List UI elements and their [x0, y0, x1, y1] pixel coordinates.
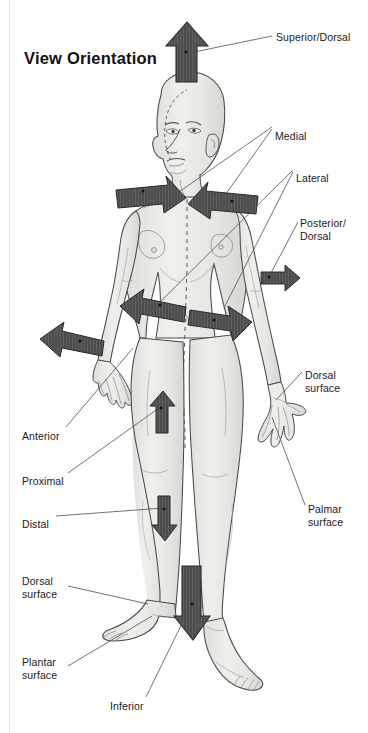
label-palmar-surface: Palmar [308, 503, 342, 516]
label-dorsal-surface-foot-2: surface [22, 588, 57, 601]
pupil-right [192, 129, 195, 132]
posterior-arrow [261, 265, 300, 291]
label-posterior-dorsal: Posterior/ [300, 217, 346, 230]
foot-left-shape [103, 600, 176, 641]
label-dorsal-surface-hand-2: surface [305, 382, 340, 395]
pupil-left [171, 130, 174, 133]
anterior-arrow [40, 322, 104, 357]
label-plantar-surface-2: surface [22, 669, 57, 682]
label-distal: Distal [22, 518, 49, 531]
hand-left-shape [93, 360, 133, 408]
label-inferior: Inferior [110, 700, 143, 713]
label-anterior: Anterior [22, 430, 60, 443]
label-dorsal-surface-hand: Dorsal [305, 369, 336, 382]
label-lateral: Lateral [296, 172, 329, 185]
label-posterior-dorsal-2: Dorsal [300, 230, 331, 243]
leader-plantar-foot [68, 616, 152, 666]
label-medial: Medial [275, 130, 307, 143]
head-shape [153, 72, 225, 181]
label-dorsal-surface-foot: Dorsal [22, 575, 53, 588]
foot-right-shape [204, 618, 263, 690]
figure-svg [0, 0, 368, 733]
label-palmar-surface-2: surface [308, 516, 343, 529]
anatomy-diagram-canvas [0, 0, 368, 733]
leader-dorsal-foot [68, 586, 148, 604]
label-superior-dorsal: Superior/Dorsal [276, 31, 350, 44]
hand-right-shape [258, 382, 306, 447]
superior-arrow [166, 22, 208, 82]
label-plantar-surface: Plantar [22, 656, 56, 669]
label-proximal: Proximal [22, 475, 64, 488]
page-title: View Orientation [24, 49, 157, 68]
